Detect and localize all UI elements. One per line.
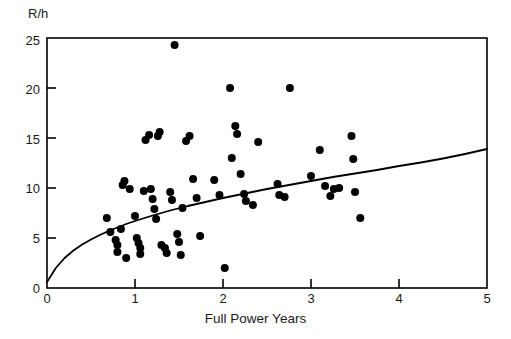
data-point xyxy=(113,241,121,249)
data-point-group xyxy=(103,41,364,272)
data-point xyxy=(149,195,157,203)
plot-canvas xyxy=(0,0,511,339)
data-point xyxy=(210,176,218,184)
data-point xyxy=(193,194,201,202)
data-point xyxy=(347,132,355,140)
data-point xyxy=(171,41,179,49)
data-point xyxy=(286,84,294,92)
data-point xyxy=(274,180,282,188)
data-point xyxy=(156,128,164,136)
data-point xyxy=(237,170,245,178)
data-point xyxy=(326,192,334,200)
data-point xyxy=(120,177,128,185)
data-point xyxy=(307,172,315,180)
data-point xyxy=(226,84,234,92)
data-point xyxy=(196,232,204,240)
data-point xyxy=(335,184,343,192)
data-point xyxy=(140,187,148,195)
data-point xyxy=(321,182,329,190)
data-point xyxy=(122,254,130,262)
data-point xyxy=(221,264,229,272)
data-point xyxy=(242,197,250,205)
data-point xyxy=(103,214,111,222)
data-point xyxy=(168,196,176,204)
data-point xyxy=(351,188,359,196)
trend-curve-path xyxy=(47,149,487,282)
data-point xyxy=(254,138,262,146)
data-point xyxy=(173,230,181,238)
data-point xyxy=(177,251,185,259)
data-point xyxy=(131,212,139,220)
scatter-chart-figure: R/h 25 20 15 10 5 0 0 1 2 3 4 5 Full Pow… xyxy=(0,0,511,339)
data-point xyxy=(106,228,114,236)
data-point xyxy=(163,249,171,257)
data-point xyxy=(215,191,223,199)
data-point xyxy=(231,122,239,130)
data-point xyxy=(147,185,155,193)
trend-curve xyxy=(47,149,487,282)
data-point xyxy=(349,155,357,163)
data-point xyxy=(150,205,158,213)
data-point xyxy=(240,190,248,198)
data-point xyxy=(126,185,134,193)
data-point xyxy=(228,154,236,162)
data-point xyxy=(117,225,125,233)
data-point xyxy=(189,175,197,183)
data-point xyxy=(136,250,144,258)
data-point xyxy=(249,201,257,209)
data-point xyxy=(233,130,241,138)
data-point xyxy=(113,248,121,256)
x-axis-tick-marks xyxy=(135,279,399,288)
data-point xyxy=(281,193,289,201)
data-point xyxy=(356,214,364,222)
data-point xyxy=(186,132,194,140)
data-point xyxy=(316,146,324,154)
data-point xyxy=(152,215,160,223)
data-point xyxy=(179,204,187,212)
y-axis-tick-marks xyxy=(47,88,56,238)
data-point xyxy=(166,188,174,196)
data-point xyxy=(145,131,153,139)
data-point xyxy=(175,238,183,246)
